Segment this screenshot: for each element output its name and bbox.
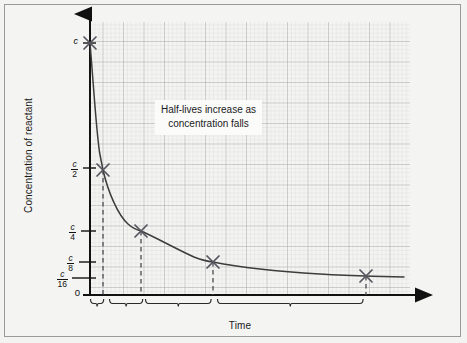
x-axis-title: Time bbox=[185, 320, 295, 331]
y-tick-den-4: 4 bbox=[69, 233, 76, 242]
chart-annotation: Half-lives increase as concentration fal… bbox=[155, 100, 262, 135]
y-tick-den-16: 16 bbox=[57, 280, 68, 289]
y-tick-label-c: c bbox=[60, 37, 78, 46]
annotation-line-2: concentration falls bbox=[161, 117, 256, 131]
half-life-brackets bbox=[91, 299, 364, 307]
half-life-bracket-4 bbox=[218, 299, 364, 307]
y-tick-label-c-over-2: c 2 bbox=[60, 160, 78, 179]
figure-frame: c c 2 c 4 c 8 c 16 0 Half-lives increase… bbox=[0, 0, 467, 343]
half-life-bracket-3 bbox=[146, 299, 212, 307]
y-tick-den-2: 2 bbox=[71, 170, 78, 179]
y-axis-title: Concentration of reactant bbox=[23, 81, 34, 231]
half-life-bracket-1 bbox=[91, 299, 104, 307]
half-life-bracket-2 bbox=[110, 299, 143, 307]
annotation-line-1: Half-lives increase as bbox=[161, 103, 256, 117]
y-tick-label-zero: 0 bbox=[62, 288, 80, 298]
y-tick-den-8: 8 bbox=[67, 264, 74, 273]
y-tick-label-c-over-4: c 4 bbox=[58, 223, 76, 242]
grid-area bbox=[90, 22, 410, 295]
y-tick-label-c-over-16: c 16 bbox=[48, 270, 68, 289]
